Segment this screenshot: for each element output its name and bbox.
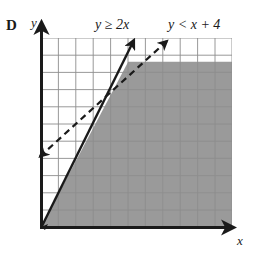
graph-figure: D y x y ≥ 2x y < x + 4 [0,0,266,257]
y-axis-label: y [31,16,37,29]
x-axis-label: x [237,234,243,247]
choice-letter: D [6,18,17,33]
inequality-label-2: y < x + 4 [168,18,220,32]
inequality-label-1: y ≥ 2x [95,18,129,32]
coordinate-plane-svg [0,0,266,257]
